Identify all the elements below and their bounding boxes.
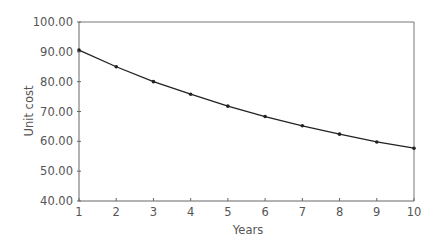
- x-tick-label: 8: [336, 205, 343, 219]
- data-series: [77, 48, 416, 150]
- line-chart: 100.0090.0080.0070.0060.0050.0040.00 123…: [0, 0, 439, 252]
- data-point-marker: [152, 80, 156, 84]
- y-tick-label: 100.00: [33, 15, 73, 29]
- x-tick-label: 2: [113, 205, 120, 219]
- data-point-marker: [114, 65, 118, 69]
- data-point-marker: [263, 115, 267, 119]
- x-tick-label: 9: [373, 205, 380, 219]
- x-tick-label: 5: [224, 205, 231, 219]
- y-tick-label: 70.00: [40, 105, 73, 119]
- x-tick-label: 4: [187, 205, 194, 219]
- x-tick-label: 7: [299, 205, 306, 219]
- x-tick-label: 6: [261, 205, 268, 219]
- y-tick-label: 60.00: [40, 134, 73, 148]
- x-tick-label: 10: [407, 205, 422, 219]
- x-axis-title: Years: [232, 223, 263, 237]
- x-tick-label: 1: [75, 205, 82, 219]
- series-line: [79, 50, 414, 148]
- data-point-marker: [375, 140, 379, 144]
- y-tick-label: 50.00: [40, 164, 73, 178]
- y-axis: 100.0090.0080.0070.0060.0050.0040.00: [33, 15, 81, 208]
- y-tick-label: 80.00: [40, 75, 73, 89]
- data-point-marker: [77, 48, 81, 52]
- data-point-marker: [412, 146, 416, 150]
- data-point-marker: [189, 92, 193, 96]
- y-axis-title: Unit cost: [22, 85, 36, 136]
- x-tick-label: 3: [150, 205, 157, 219]
- y-tick-label: 90.00: [40, 45, 73, 59]
- y-tick-label: 40.00: [40, 194, 73, 208]
- data-point-marker: [301, 124, 305, 128]
- data-point-marker: [338, 132, 342, 136]
- data-point-marker: [226, 104, 230, 108]
